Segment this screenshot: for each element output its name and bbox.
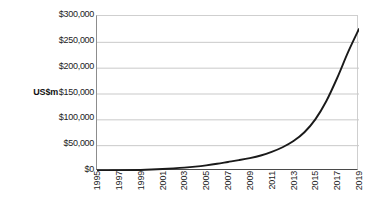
x-tick-label: 2011 bbox=[266, 171, 278, 217]
x-tick-label: 2007 bbox=[222, 171, 234, 217]
y-tick-label: $200,000 bbox=[26, 62, 94, 71]
x-tick-label: 2001 bbox=[157, 171, 169, 217]
x-tick-label: 2017 bbox=[331, 171, 343, 217]
line-chart: US$m $300,000$250,000$200,000$150,000$10… bbox=[0, 0, 368, 217]
y-tick-label: $300,000 bbox=[26, 10, 94, 19]
gridlines bbox=[97, 42, 359, 145]
y-tick-label: $0 bbox=[26, 165, 94, 174]
x-tick-label: 2005 bbox=[200, 171, 212, 217]
x-tick-label: 2015 bbox=[309, 171, 321, 217]
y-tick-label: $150,000 bbox=[26, 88, 94, 97]
x-axis-tick-labels: 1995199719992001200320052007200920112013… bbox=[96, 171, 358, 217]
y-tick-label: $100,000 bbox=[26, 113, 94, 122]
x-tick-label: 2003 bbox=[178, 171, 190, 217]
y-tick-label: $250,000 bbox=[26, 36, 94, 45]
x-tick-label: 1995 bbox=[91, 171, 103, 217]
y-tick-label: $50,000 bbox=[26, 139, 94, 148]
plot-svg bbox=[97, 16, 359, 171]
y-axis-tick-labels: $300,000$250,000$200,000$150,000$100,000… bbox=[26, 0, 94, 217]
x-tick-label: 2013 bbox=[288, 171, 300, 217]
x-tick-label: 2009 bbox=[244, 171, 256, 217]
plot-area bbox=[96, 15, 358, 170]
x-tick-label: 1997 bbox=[113, 171, 125, 217]
x-tick-label: 2019 bbox=[353, 171, 365, 217]
data-series-line bbox=[97, 29, 359, 171]
x-tick-label: 1999 bbox=[135, 171, 147, 217]
